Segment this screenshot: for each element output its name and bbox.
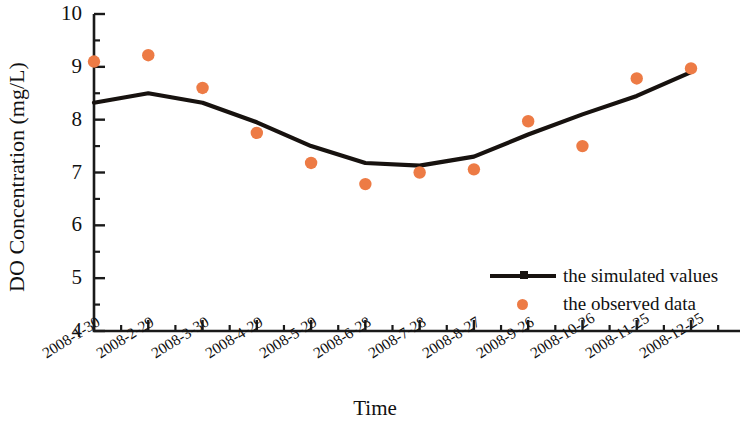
legend-label-observed: the observed data: [559, 293, 696, 315]
chart-figure: DO Concentration (mg/L) Time 10987654 20…: [0, 0, 745, 424]
y-tick-label: 6: [48, 214, 82, 235]
legend-item-observed: the observed data: [487, 290, 742, 318]
legend-item-simulated: the simulated values: [487, 262, 742, 290]
y-tick-label: 5: [48, 267, 82, 288]
y-tick-label: 8: [48, 109, 82, 130]
legend-dot-icon: [487, 293, 559, 315]
y-tick-label: 10: [48, 3, 82, 24]
legend: the simulated values the observed data: [487, 262, 742, 318]
y-tick-label: 9: [48, 56, 82, 77]
legend-line-icon: [487, 265, 559, 287]
simulated-values-line: [94, 72, 691, 166]
y-tick-label: 7: [48, 162, 82, 183]
observed-data-points: [88, 49, 697, 190]
legend-label-simulated: the simulated values: [559, 265, 718, 287]
